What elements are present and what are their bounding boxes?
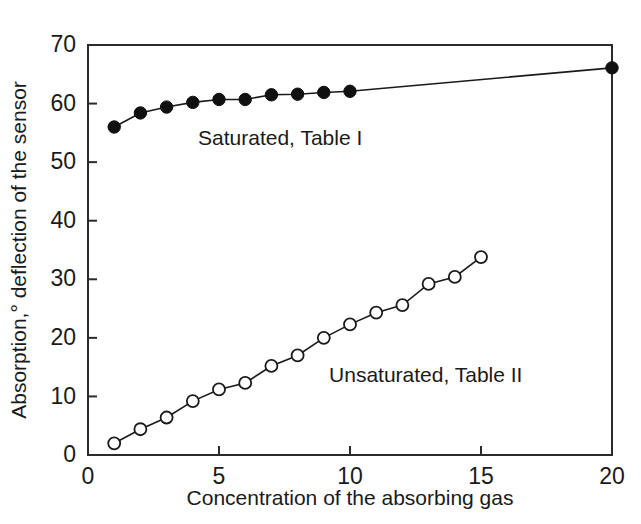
data-point-open — [396, 299, 408, 311]
data-point-open — [213, 383, 225, 395]
series-annotation-label: Unsaturated, Table II — [329, 363, 522, 386]
x-tick-label: 20 — [599, 463, 625, 489]
data-point-filled — [344, 85, 356, 97]
series-annotation-label: Saturated, Table I — [198, 126, 362, 149]
data-point-open — [187, 395, 199, 407]
data-point-filled — [606, 62, 618, 74]
data-point-filled — [108, 121, 120, 133]
data-point-filled — [291, 88, 303, 100]
y-tick-label: 20 — [50, 324, 76, 350]
data-point-open — [475, 251, 487, 263]
x-tick-label: 5 — [213, 463, 226, 489]
x-tick-label: 0 — [82, 463, 95, 489]
data-point-filled — [239, 93, 251, 105]
data-point-open — [108, 437, 120, 449]
data-point-filled — [318, 86, 330, 98]
y-tick-label: 0 — [63, 441, 76, 467]
data-point-filled — [265, 89, 277, 101]
y-tick-label: 70 — [50, 31, 76, 57]
data-point-open — [134, 423, 146, 435]
y-axis-title: Absorption,° deflection of the sensor — [7, 81, 30, 419]
y-tick-label: 50 — [50, 148, 76, 174]
y-tick-label: 40 — [50, 207, 76, 233]
data-point-open — [265, 360, 277, 372]
data-point-open — [161, 412, 173, 424]
data-point-open — [423, 278, 435, 290]
data-point-open — [318, 332, 330, 344]
x-tick-label: 15 — [468, 463, 494, 489]
data-point-filled — [187, 96, 199, 108]
data-point-filled — [160, 101, 172, 113]
y-tick-label: 30 — [50, 265, 76, 291]
absorption-vs-concentration-chart: 010203040506070 05101520 Saturated, Tabl… — [0, 0, 641, 524]
data-point-filled — [213, 93, 225, 105]
data-point-filled — [134, 107, 146, 119]
data-point-open — [449, 271, 461, 283]
data-point-open — [292, 349, 304, 361]
data-point-open — [239, 377, 251, 389]
data-point-open — [370, 307, 382, 319]
y-tick-label: 10 — [50, 383, 76, 409]
chart-background — [0, 0, 641, 524]
chart-figure: 010203040506070 05101520 Saturated, Tabl… — [0, 0, 641, 524]
x-axis-title: Concentration of the absorbing gas — [187, 486, 514, 509]
data-point-open — [344, 318, 356, 330]
x-tick-label: 10 — [337, 463, 363, 489]
y-tick-label: 60 — [50, 90, 76, 116]
